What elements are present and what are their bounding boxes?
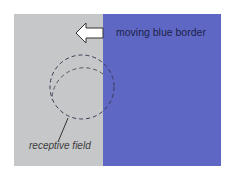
receptive-field-circle	[50, 55, 114, 119]
pointer-line	[58, 118, 68, 142]
left-arrow-icon	[76, 23, 103, 43]
moving-border-label: moving blue border	[116, 26, 206, 38]
receptive-field-label: receptive field	[29, 140, 91, 151]
